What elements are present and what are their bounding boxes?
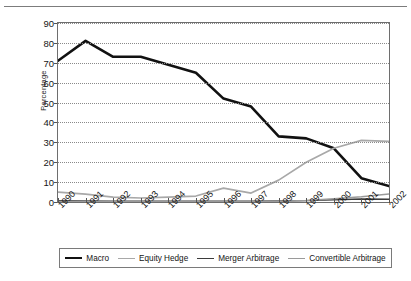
gridline — [58, 83, 389, 84]
legend-label: Macro — [86, 254, 109, 263]
legend-item[interactable]: Merger Arbitrage — [197, 254, 279, 263]
x-axis-tick-labels: 1990199119921993199419951996199719981999… — [57, 203, 390, 245]
legend-swatch-icon — [197, 258, 214, 259]
y-axis-tick-label: 50 — [20, 97, 54, 108]
legend-item[interactable]: Convertible Arbitrage — [288, 254, 385, 263]
y-axis-tick-labels: 0102030405060708090 — [16, 22, 54, 203]
y-axis-tick-label: 30 — [20, 137, 54, 148]
gridline — [58, 162, 389, 163]
legend-label: Convertible Arbitrage — [309, 254, 385, 263]
y-axis-tick-label: 0 — [20, 197, 54, 208]
gridline — [58, 182, 389, 183]
legend-item[interactable]: Equity Hedge — [118, 254, 188, 263]
gridline — [58, 23, 389, 24]
gridline — [58, 103, 389, 104]
y-axis-tick-label: 10 — [20, 177, 54, 188]
x-axis-tick-label: 2002 — [387, 189, 408, 210]
series-lines — [58, 23, 389, 202]
gridline — [58, 43, 389, 44]
gridline — [58, 63, 389, 64]
legend-swatch-icon — [118, 258, 135, 259]
gridline — [58, 122, 389, 123]
y-axis-tick-label: 80 — [20, 37, 54, 48]
legend-label: Merger Arbitrage — [218, 254, 279, 263]
y-axis-tick-label: 20 — [20, 157, 54, 168]
y-axis-tick-label: 40 — [20, 117, 54, 128]
chart-legend: MacroEquity HedgeMerger ArbitrageConvert… — [59, 248, 392, 268]
legend-swatch-icon — [65, 257, 82, 259]
y-axis-tick-label: 90 — [20, 18, 54, 29]
gridline — [58, 142, 389, 143]
y-axis-tick-label: 70 — [20, 57, 54, 68]
line-chart-figure: Percentage 0102030405060708090 199019911… — [0, 0, 411, 281]
series-line — [58, 140, 389, 198]
y-axis-tick-label: 60 — [20, 77, 54, 88]
legend-item[interactable]: Macro — [65, 254, 109, 263]
legend-swatch-icon — [288, 258, 305, 259]
legend-label: Equity Hedge — [139, 254, 188, 263]
plot-area — [57, 22, 390, 203]
